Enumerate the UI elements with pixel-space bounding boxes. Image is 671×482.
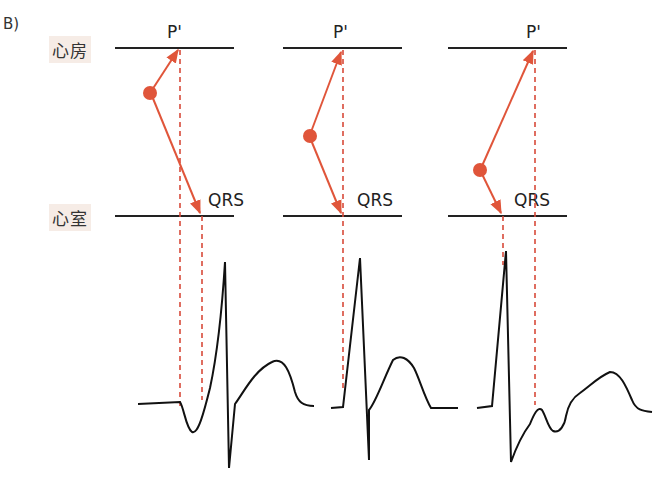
retrograde-arrow [152, 50, 178, 90]
junction-origin-dot [473, 163, 487, 177]
ladder-diagram [0, 0, 671, 482]
retrograde-arrow [311, 52, 341, 132]
retrograde-arrow [482, 51, 533, 166]
panel-2 [283, 48, 458, 460]
ecg-waveform-3 [477, 251, 652, 462]
antegrade-arrow [311, 140, 341, 213]
junction-origin-dot [303, 129, 317, 143]
ecg-waveform-1 [138, 262, 314, 468]
junction-origin-dot [143, 86, 157, 100]
panel-3 [448, 48, 652, 462]
ecg-waveform-2 [331, 258, 458, 460]
antegrade-arrow [152, 96, 200, 213]
panel-1 [115, 48, 314, 468]
antegrade-arrow [482, 174, 501, 213]
